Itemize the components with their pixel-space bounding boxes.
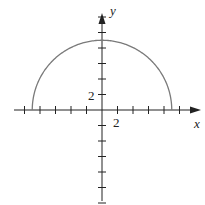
- axes: [14, 13, 201, 203]
- y-tick-label-2: 2: [88, 89, 95, 102]
- y-axis-arrow-icon: [99, 13, 106, 24]
- semicircle-chart: [0, 0, 205, 205]
- x-axis-label: x: [194, 117, 200, 130]
- x-axis-arrow-icon: [190, 107, 201, 114]
- y-axis-label: y: [110, 4, 116, 17]
- x-tick-label-2: 2: [113, 116, 120, 129]
